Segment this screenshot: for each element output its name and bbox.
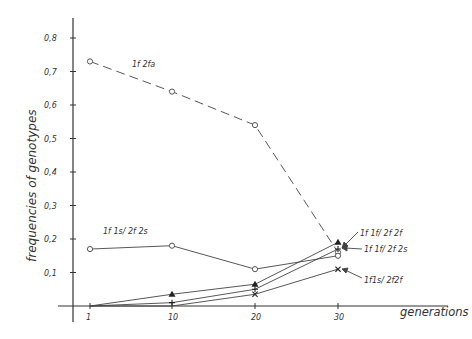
circle-marker <box>87 246 92 251</box>
circle-marker <box>252 267 257 272</box>
series-line <box>90 246 338 269</box>
x-tick-label: 30 <box>334 313 344 322</box>
label-1f1s2f2s: 1f 1s/ 2f 2s <box>103 227 148 236</box>
x-axis-label: generations <box>400 305 469 319</box>
plus-marker <box>252 286 258 292</box>
y-tick-label: 0,2 <box>44 235 57 244</box>
circle-marker <box>169 243 174 248</box>
circle-marker <box>335 253 340 258</box>
x-tick-label: 20 <box>251 313 261 322</box>
x-tick-label: 10 <box>168 313 178 322</box>
triangle-marker <box>335 239 342 245</box>
circle-marker <box>87 59 92 64</box>
label-1f2fa: 1f 2fa <box>132 60 155 69</box>
label-1f1s2f2f: 1f1s/ 2f2f <box>364 276 403 285</box>
y-tick-label: 0,4 <box>44 168 57 177</box>
y-tick-label: 0,6 <box>44 101 57 110</box>
y-tick-label: 0,7 <box>44 68 58 77</box>
cross-marker <box>335 267 340 272</box>
series-lines <box>90 61 338 306</box>
y-tick-label: 0,1 <box>44 269 57 278</box>
plus-marker <box>169 300 175 306</box>
circle-marker <box>252 123 257 128</box>
circle-marker <box>169 89 174 94</box>
y-axis-label: frequencies of genotypes <box>25 109 39 262</box>
label-1f1f2f2s: 1f 1f/ 2f 2s <box>364 245 407 254</box>
series-line <box>90 61 338 252</box>
y-tick-label: 0,3 <box>44 202 57 211</box>
x-tick-label: 1 <box>86 313 91 322</box>
y-ticks: 0,10,20,30,40,50,60,70,8 <box>44 34 76 278</box>
y-tick-label: 0,8 <box>44 34 57 43</box>
label-1f1f2f2f: 1f 1f/ 2f 2f <box>360 229 403 238</box>
series-markers <box>87 59 341 306</box>
genotype-frequency-chart: 0,10,20,30,40,50,60,70,8 1102030 generat… <box>0 0 472 339</box>
series-line <box>90 242 338 306</box>
y-tick-label: 0,5 <box>44 135 57 144</box>
annotation-arrows <box>342 232 362 278</box>
triangle-marker <box>252 281 259 287</box>
